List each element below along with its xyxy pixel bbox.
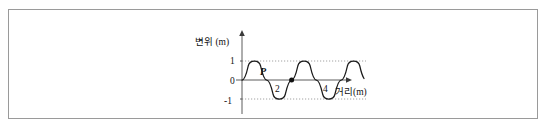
y-tick-label-one: 1 [230,57,235,67]
point-p-label: P [260,67,266,77]
x-tick-label-two: 2 [275,85,280,95]
y-tick-label-negative-one: -1 [224,97,232,107]
x-tick-label-four: 4 [323,85,328,95]
wave-graph: 변위 (m) 거리(m) 1 0 -1 2 4 P [194,24,384,124]
y-tick-label-zero: 0 [230,77,235,87]
y-axis-arrowhead [239,30,245,36]
figure-page: 변위 (m) 거리(m) 1 0 -1 2 4 P [0,0,551,135]
figure-frame: 변위 (m) 거리(m) 1 0 -1 2 4 P [8,9,538,119]
y-axis-label: 변위 (m) [195,38,229,48]
point-p-marker [289,78,294,83]
x-axis-arrowhead [346,77,352,83]
x-axis-label: 거리(m) [335,88,367,98]
